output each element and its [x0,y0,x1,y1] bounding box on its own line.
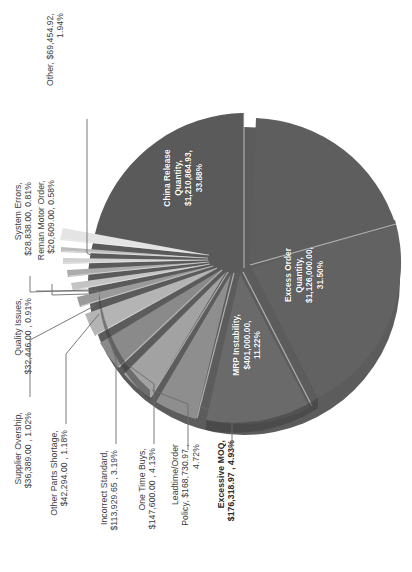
label-line: $28,838.00, 0.81% [23,182,33,272]
callout-label-supplier-overship: Supplier Overship, $36,389.00 , 1.02% [13,412,34,512]
label-line: One Time Buys, [137,448,147,548]
slice-label-mrp-instability: MRP Instability, $401,000.00, 11.22% [231,286,263,404]
label-line: $42,294.00 , 1.18% [59,430,69,540]
label-line: $32,446.00 , 0.91% [23,298,33,390]
label-line: $401,000.00, [242,286,253,404]
label-line: 4.72% [191,444,201,556]
callout-label-other: Other, $69,454.92, 1.94% [45,13,66,118]
label-line: System Errors, [13,182,23,272]
callout-label-quality-issues: Quality Issues, $32,446.00 , 0.91% [13,298,34,390]
label-line: 31.50% [315,205,326,345]
label-line: Leadtime/Order [170,444,180,556]
label-line: China Release [162,113,173,243]
label-line: Incorrect Standard, [99,450,109,560]
label-line: $147,600.00 , 4.13% [147,448,157,548]
label-line: $1,126,000.00, [304,205,315,345]
label-line: Quantity, [294,205,305,345]
label-line: Other Parts Shortage, [49,430,59,540]
label-line: 11.22% [252,286,263,404]
callout-label-reman-motor-order: Reman Motor Order, $20,609.00, 0.58% [36,180,57,280]
label-line: $176,318.97 , 4.93% [226,440,236,548]
label-line: Reman Motor Order, [36,180,46,280]
label-line: Other, $69,454.92, [45,13,55,118]
callout-label-leadtime-order-policy: Leadtime/Order Policy, $168,730.97 , 4.7… [170,444,201,556]
callout-label-excessive-moq: Excessive MOQ, $176,318.97 , 4.93% [216,440,237,548]
chart-canvas: China Release Quantity, $1,210,864.93, 3… [0,0,412,572]
label-line: Excessive MOQ, [216,440,226,548]
label-line: Supplier Overship, [13,412,23,512]
label-line: 1.94% [55,13,65,118]
label-line: 33.88% [194,113,205,243]
callout-label-system-errors: System Errors, $28,838.00, 0.81% [13,182,34,272]
label-line: Policy, $168,730.97 , [180,444,190,556]
callout-label-incorrect-standard: Incorrect Standard, $113,929.65 , 3.19% [99,450,120,560]
slice-label-excess-order-quantity: Excess Order Quantity, $1,126,000.00, 31… [283,205,325,345]
label-line: $20,609.00, 0.58% [46,180,56,280]
slice-label-china-release-quantity: China Release Quantity, $1,210,864.93, 3… [162,113,204,243]
label-line: Excess Order [283,205,294,345]
label-line: $113,929.65 , 3.19% [109,450,119,560]
callout-label-other-parts-shortage: Other Parts Shortage, $42,294.00 , 1.18% [49,430,70,540]
label-line: $36,389.00 , 1.02% [23,412,33,512]
label-line: $1,210,864.93, [183,113,194,243]
label-line: MRP Instability, [231,286,242,404]
callout-label-one-time-buys: One Time Buys, $147,600.00 , 4.13% [137,448,158,548]
label-line: Quantity, [173,113,184,243]
label-line: Quality Issues, [13,298,23,390]
